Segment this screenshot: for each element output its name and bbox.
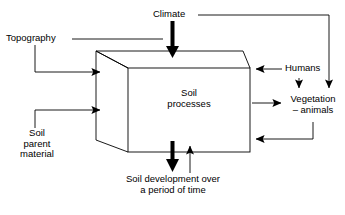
- label-soil-development-line1: Soil development over: [110, 174, 236, 185]
- soil-development-arrow: [166, 141, 179, 172]
- topography-line: [35, 39, 163, 72]
- label-soil-development-line2: a period of time: [110, 185, 236, 196]
- soil-processes-diagram: Climate Topography Soil parent material …: [0, 0, 345, 215]
- climate-to-box-arrow: [166, 21, 179, 58]
- box-front-face: [128, 68, 250, 152]
- label-soil-processes: Soil processes: [154, 88, 224, 109]
- label-vegetation-line2: – animals: [283, 105, 343, 116]
- label-soil-parent-material-line3: material: [8, 149, 66, 160]
- climate-to-vegetation-line: [198, 15, 329, 88]
- label-humans: Humans: [285, 63, 320, 74]
- label-vegetation-line1: Vegetation: [283, 94, 343, 105]
- label-soil-parent-material-line1: Soil: [8, 128, 66, 139]
- label-soil-development: Soil development over a period of time: [110, 174, 236, 195]
- label-soil-processes-line2: processes: [154, 99, 224, 110]
- label-climate: Climate: [153, 9, 185, 20]
- vegetation-feedback-line: [256, 122, 313, 139]
- label-soil-processes-line1: Soil: [154, 88, 224, 99]
- label-topography: Topography: [6, 33, 56, 44]
- label-soil-parent-material: Soil parent material: [8, 128, 66, 160]
- label-vegetation-animals: Vegetation – animals: [283, 94, 343, 115]
- soil-parent-material-line: [35, 110, 100, 128]
- box-left-face: [96, 51, 128, 152]
